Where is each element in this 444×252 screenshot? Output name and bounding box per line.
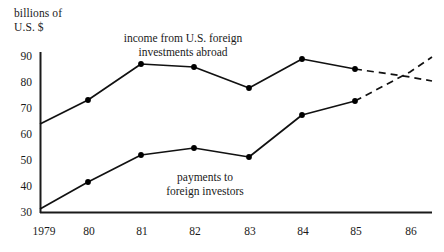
data-point-payments-81 <box>138 152 144 158</box>
plot-area <box>0 0 444 252</box>
data-point-income-82 <box>191 64 197 70</box>
data-point-payments-80 <box>85 179 91 185</box>
data-point-income-80 <box>85 97 91 103</box>
data-point-payments-84 <box>299 112 305 118</box>
data-point-payments-85 <box>352 98 358 104</box>
data-point-income-83 <box>246 85 252 91</box>
data-point-income-85 <box>352 66 358 72</box>
series-income-line <box>40 56 432 124</box>
data-point-payments-82 <box>191 145 197 151</box>
series-income-dashed <box>355 69 432 81</box>
data-point-payments-83 <box>246 154 252 160</box>
chart-figure: billions of U.S. $ 90 80 70 60 50 40 30 … <box>0 0 444 252</box>
axes-group <box>40 52 432 213</box>
data-point-income-84 <box>299 56 305 62</box>
series-payments-solid <box>40 101 355 209</box>
series-payments-line <box>40 57 432 209</box>
data-point-income-81 <box>138 61 144 67</box>
